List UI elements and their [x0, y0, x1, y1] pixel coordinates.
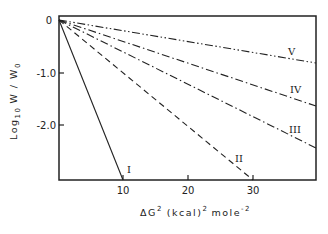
line-label-III: III [289, 124, 301, 135]
y-tick-label-m1: -1.0 [36, 68, 56, 79]
line-label-II: II [235, 153, 243, 164]
line-II [59, 20, 253, 180]
x-tick-label-30: 30 [247, 185, 260, 196]
x-tick-label-10: 10 [117, 185, 130, 196]
x-tick-label-20: 20 [182, 185, 195, 196]
line-label-IV: IV [290, 84, 302, 95]
y-tick-label-0: 0 [46, 15, 52, 26]
y-axis-title: Log10W / W0 [8, 62, 22, 140]
x-axis-title: ΔG2(kcal)2mole-2 [140, 205, 251, 218]
line-III [59, 20, 316, 148]
chart: 0 -1.0 -2.0 10 20 30 I II III IV V ΔG2(k… [0, 0, 328, 234]
line-label-I: I [127, 164, 131, 175]
plot-frame [59, 16, 316, 180]
line-I [59, 20, 123, 180]
line-IV [59, 20, 316, 106]
line-label-V: V [287, 46, 296, 57]
line-V [59, 20, 316, 63]
y-tick-label-m2: -2.0 [36, 120, 56, 131]
